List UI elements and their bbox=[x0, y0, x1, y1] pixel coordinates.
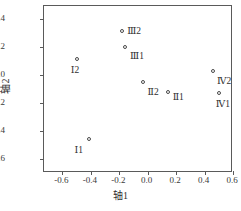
scatter-plot-figure: Ⅰ2Ⅰ1Ⅲ2Ⅲ1Ⅱ2Ⅱ1Ⅳ2Ⅳ1 -0.6-0.4-0.20.00.20.40.… bbox=[0, 0, 241, 211]
x-axis-title: 轴1 bbox=[0, 190, 241, 202]
data-point-label: Ⅲ1 bbox=[130, 51, 144, 61]
data-point-marker bbox=[120, 29, 124, 33]
data-point-label: Ⅰ2 bbox=[71, 65, 80, 75]
data-point-label: Ⅳ1 bbox=[216, 99, 230, 109]
data-point-label: Ⅰ1 bbox=[74, 145, 83, 155]
x-tick-label: 0.6 bbox=[215, 175, 241, 185]
y-tick-label: -0.6 bbox=[0, 153, 5, 163]
y-tick-mark bbox=[40, 103, 44, 104]
y-tick-label: -0.4 bbox=[0, 125, 5, 135]
y-tick-mark bbox=[40, 19, 44, 20]
data-point-marker bbox=[87, 137, 91, 141]
y-tick-label: 0.2 bbox=[0, 41, 5, 51]
y-tick-mark bbox=[40, 159, 44, 160]
data-point-marker bbox=[211, 69, 215, 73]
y-axis-title: 轴2 bbox=[0, 66, 12, 106]
data-point-marker bbox=[141, 80, 145, 84]
data-point-marker bbox=[217, 91, 221, 95]
y-tick-mark bbox=[40, 131, 44, 132]
data-point-label: Ⅱ1 bbox=[173, 92, 184, 102]
y-tick-mark bbox=[40, 47, 44, 48]
data-point-marker bbox=[166, 90, 170, 94]
data-point-label: Ⅱ2 bbox=[147, 87, 158, 97]
data-point-label: Ⅳ2 bbox=[217, 76, 231, 86]
data-point-marker bbox=[123, 45, 127, 49]
data-point-marker bbox=[75, 57, 79, 61]
data-point-label: Ⅲ2 bbox=[127, 26, 141, 36]
y-tick-mark bbox=[40, 75, 44, 76]
y-tick-label: 0.4 bbox=[0, 13, 5, 23]
plot-area: Ⅰ2Ⅰ1Ⅲ2Ⅲ1Ⅱ2Ⅱ1Ⅳ2Ⅳ1 bbox=[43, 5, 232, 172]
